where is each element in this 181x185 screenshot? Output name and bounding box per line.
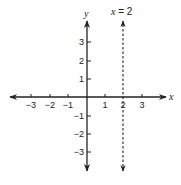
x-tick-label: −1 — [63, 100, 73, 110]
y-tick-label: −2 — [74, 129, 84, 139]
x-tick-label: −3 — [26, 100, 36, 110]
y-tick-label: −1 — [74, 111, 84, 121]
y-axis-label: y — [83, 8, 89, 19]
x-tick-label: 1 — [102, 100, 107, 110]
y-tick-label: 1 — [79, 74, 84, 84]
line-label: x = 2 — [110, 6, 133, 17]
coordinate-plane: −3 −2 −1 1 2 3 3 2 1 −1 −2 −3 x y x = 2 — [0, 0, 181, 185]
y-tick-label: 2 — [79, 56, 84, 66]
x-tick-label: 3 — [139, 100, 144, 110]
x-axis-label: x — [168, 91, 174, 102]
y-tick-label: −3 — [74, 147, 84, 157]
x-tick-label: −2 — [45, 100, 55, 110]
y-tick-label: 3 — [79, 37, 84, 47]
